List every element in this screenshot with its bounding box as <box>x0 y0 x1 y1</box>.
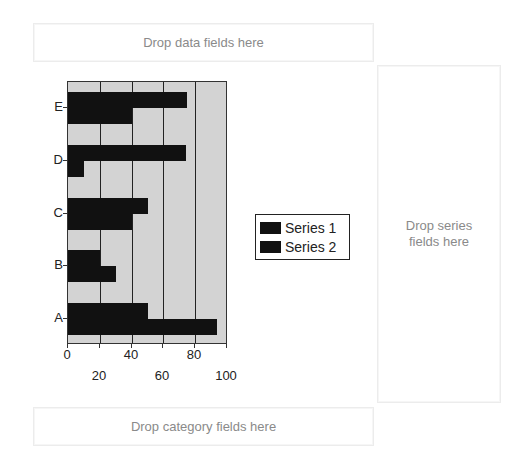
bar-C-series-2[interactable] <box>68 214 132 230</box>
bar-D-series-1[interactable] <box>68 145 186 161</box>
y-axis-tick <box>63 318 67 319</box>
bar-C-series-1[interactable] <box>68 198 148 214</box>
drop-data-fields-label: Drop data fields here <box>143 35 264 50</box>
bar-E-series-2[interactable] <box>68 108 132 124</box>
y-axis-tick <box>63 265 67 266</box>
drop-series-fields-label: Drop series fields here <box>406 218 472 250</box>
legend-item-series-2[interactable]: Series 2 <box>260 237 345 256</box>
drop-category-fields-zone[interactable]: Drop category fields here <box>33 407 374 446</box>
legend-swatch-icon <box>260 222 281 234</box>
y-axis-label: C <box>49 205 63 220</box>
y-axis-label: A <box>49 310 63 325</box>
y-axis-label: D <box>49 152 63 167</box>
gridline <box>163 82 164 343</box>
gridline <box>195 82 196 343</box>
y-axis-label: E <box>49 99 63 114</box>
drop-series-line1: Drop series <box>406 218 472 233</box>
y-axis-tick <box>63 160 67 161</box>
bar-A-series-2[interactable] <box>68 319 217 335</box>
plot-area[interactable] <box>67 81 227 344</box>
bar-D-series-2[interactable] <box>68 161 84 177</box>
x-axis-tick <box>226 344 227 348</box>
y-axis-label: B <box>49 257 63 272</box>
drop-data-fields-zone[interactable]: Drop data fields here <box>33 23 374 62</box>
drop-category-fields-label: Drop category fields here <box>131 419 276 434</box>
bar-B-series-2[interactable] <box>68 266 116 282</box>
bar-E-series-1[interactable] <box>68 92 187 108</box>
x-axis-tick <box>99 344 100 348</box>
chart-legend[interactable]: Series 1 Series 2 <box>255 214 350 260</box>
x-axis-label: 80 <box>187 347 201 362</box>
bar-B-series-1[interactable] <box>68 250 100 266</box>
x-axis-label: 0 <box>63 347 70 362</box>
x-axis-tick <box>162 344 163 348</box>
y-axis-tick <box>63 213 67 214</box>
x-axis-label: 40 <box>124 347 138 362</box>
bar-A-series-1[interactable] <box>68 303 148 319</box>
legend-label: Series 1 <box>285 220 336 236</box>
x-axis-label: 60 <box>155 368 169 383</box>
drop-series-line2: fields here <box>409 234 469 249</box>
x-axis-label: 20 <box>92 368 106 383</box>
y-axis-tick <box>63 107 67 108</box>
legend-swatch-icon <box>260 241 281 253</box>
legend-item-series-1[interactable]: Series 1 <box>260 218 345 237</box>
x-axis-label: 100 <box>215 368 237 383</box>
legend-label: Series 2 <box>285 239 336 255</box>
drop-series-fields-zone[interactable]: Drop series fields here <box>377 65 501 403</box>
